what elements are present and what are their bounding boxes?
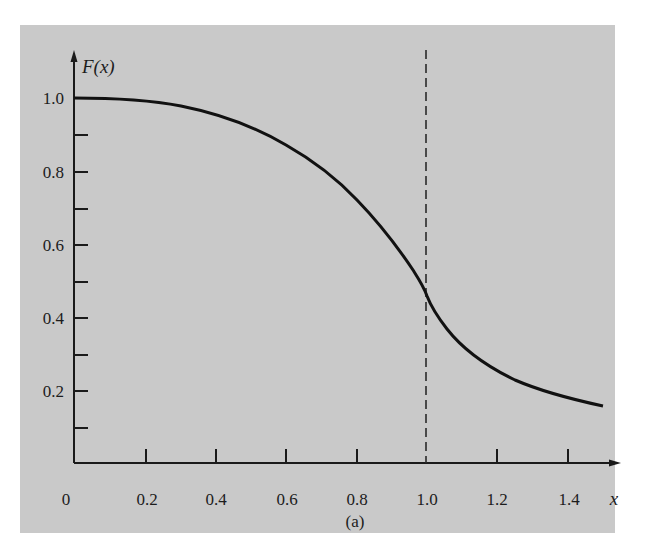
x-tick-label: 0.8	[346, 490, 367, 509]
series-line-F	[74, 98, 603, 406]
y-axis-arrow-icon	[71, 50, 78, 62]
y-tick-label: 0.2	[43, 382, 64, 401]
y-axis-title: F(x)	[81, 56, 115, 78]
x-axis-title: x	[609, 488, 619, 509]
y-tick-label: 1.0	[43, 89, 64, 108]
x-tick-label: 1.0	[416, 490, 437, 509]
x-tick-label: 0.4	[205, 490, 227, 509]
figure-caption: (a)	[346, 512, 365, 531]
y-tick-label: 0.8	[43, 163, 64, 182]
chart-svg: 1.0 0.8 0.6 0.4 0.2 0 0.2 0.4 0.6 0.8 1.…	[0, 0, 657, 555]
x-tick-label: 1.2	[486, 490, 507, 509]
x-ticks	[146, 449, 568, 463]
x-tick-label: 0.6	[276, 490, 297, 509]
origin-label: 0	[62, 490, 71, 509]
x-axis-arrow-icon	[609, 460, 621, 467]
y-tick-label: 0.4	[43, 309, 65, 328]
y-ticks	[74, 98, 88, 428]
x-tick-label: 1.4	[558, 490, 580, 509]
y-tick-label: 0.6	[43, 236, 64, 255]
x-tick-label: 0.2	[136, 490, 157, 509]
